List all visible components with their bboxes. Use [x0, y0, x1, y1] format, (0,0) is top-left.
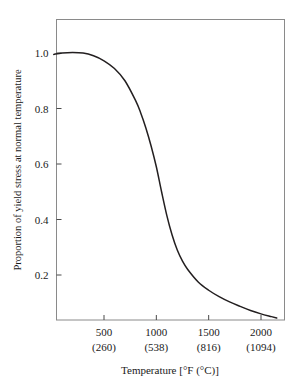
x-tick-label-c-1000: (538): [144, 341, 168, 354]
x-tick-label-c-1500: (816): [197, 341, 221, 354]
y-tick-label-0.4: 0.4: [35, 214, 49, 226]
y-tick-label-1.0: 1.0: [35, 47, 49, 59]
x-tick-label-f-1500: 1500: [198, 326, 221, 338]
x-tick-label-f-2000: 2000: [250, 326, 273, 338]
y-axis-title: Proportion of yield stress at normal tem…: [12, 69, 23, 271]
y-tick-label-0.2: 0.2: [35, 269, 49, 281]
y-tick-label-0.6: 0.6: [35, 158, 49, 170]
chart-figure: 1.00.80.60.40.2 500(260)1000(538)1500(81…: [0, 0, 308, 389]
x-tick-label-f-1000: 1000: [145, 326, 168, 338]
y-tick-label-0.8: 0.8: [35, 103, 49, 115]
x-tick-label-c-500: (260): [92, 341, 116, 354]
plot-frame: [57, 20, 285, 321]
x-tick-label-f-500: 500: [96, 326, 113, 338]
x-axis-title: Temperature [°F (°C)]: [121, 364, 219, 377]
yield-stress-vs-temperature-chart: 1.00.80.60.40.2 500(260)1000(538)1500(81…: [0, 0, 308, 389]
x-tick-label-c-2000: (1094): [246, 341, 276, 354]
